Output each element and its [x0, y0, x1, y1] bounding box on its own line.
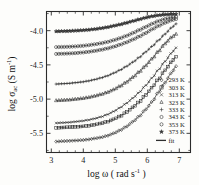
chart-canvas: 34567-4.0-4.5-5.0-5.5 293 K303 K313 K323…	[0, 0, 199, 185]
data-point	[90, 27, 94, 31]
legend-marker-triangle-icon	[160, 100, 163, 103]
data-point	[150, 14, 154, 18]
data-point	[115, 109, 118, 112]
fit-curve	[56, 48, 176, 123]
legend-label: 293 K	[169, 76, 186, 83]
x-tick-label: 5	[113, 156, 117, 165]
x-tick-label: 4	[81, 156, 85, 165]
legend-item-333-k[interactable]: 333 K	[160, 106, 185, 113]
x-tick-label: 6	[145, 156, 149, 165]
data-point	[148, 81, 151, 84]
data-point	[125, 65, 128, 68]
data-point	[172, 50, 175, 53]
legend-item-323-k[interactable]: 323 K	[160, 99, 185, 106]
legend-label: 343 K	[169, 113, 186, 120]
data-point	[65, 82, 68, 85]
data-point	[109, 112, 112, 115]
data-point	[153, 74, 156, 77]
data-point	[106, 74, 109, 77]
data-point	[123, 103, 126, 106]
y-tick-label: -5.0	[30, 95, 43, 104]
data-point	[81, 28, 85, 32]
legend-label: 373 K	[169, 128, 186, 135]
data-point	[111, 24, 115, 28]
data-point	[101, 76, 104, 79]
data-point	[161, 63, 164, 66]
legend-fit-label: fit	[169, 137, 175, 144]
data-point	[158, 13, 162, 17]
data-point	[175, 47, 178, 50]
data-point	[87, 79, 90, 82]
legend-label: 313 K	[169, 91, 186, 98]
data-point	[85, 80, 88, 83]
legend-item-303-k[interactable]: 303 K	[160, 84, 185, 91]
data-point	[95, 27, 99, 31]
y-tick-label: -4.0	[30, 27, 43, 36]
data-point	[174, 12, 178, 16]
legend-label: 303 K	[169, 84, 186, 91]
data-point	[57, 82, 60, 85]
data-point	[103, 25, 107, 29]
data-point	[76, 81, 79, 84]
data-point	[104, 75, 107, 78]
axes: 34567-4.0-4.5-5.0-5.5	[30, 12, 190, 166]
legend-label: 333 K	[169, 106, 186, 113]
data-point	[92, 27, 96, 31]
legend-label: 353 K	[169, 121, 186, 128]
x-tick-label: 7	[177, 156, 181, 165]
data-point	[93, 78, 96, 81]
y-tick-label: -4.5	[30, 61, 43, 70]
data-point	[156, 70, 159, 73]
data-point	[131, 61, 134, 64]
data-point	[90, 79, 93, 82]
series-323-k	[55, 32, 178, 101]
data-point	[117, 23, 121, 27]
data-point	[79, 80, 82, 83]
legend-marker-cross-icon	[160, 93, 163, 96]
data-point	[139, 90, 142, 93]
data-point	[112, 72, 115, 75]
series-293-k	[55, 65, 178, 144]
legend-item-fit[interactable]: fit	[156, 137, 175, 144]
legend-item-343-k[interactable]: 343 K	[160, 113, 185, 120]
y-axis-title: log σac (S m-1)	[5, 56, 18, 111]
data-point	[68, 82, 71, 85]
chart-figure: 34567-4.0-4.5-5.0-5.5 293 K303 K313 K323…	[0, 0, 199, 185]
data-point	[63, 82, 66, 85]
data-point	[142, 86, 145, 89]
data-point	[167, 56, 170, 59]
legend-marker-star-icon	[159, 130, 163, 134]
data-point	[82, 80, 85, 83]
data-point	[175, 32, 178, 35]
data-point	[120, 106, 123, 109]
y-tick-label: -5.5	[30, 129, 43, 138]
data-point	[74, 81, 77, 84]
data-point	[137, 92, 140, 95]
data-point	[98, 76, 101, 79]
data-point	[134, 95, 137, 98]
series-313-k	[55, 47, 178, 125]
chart-legend: 293 K303 K313 K323 K333 K343 K353 K373 K…	[156, 76, 185, 143]
x-axis-title: log ω ( rad s-1 )	[87, 167, 145, 179]
data-point	[158, 68, 161, 71]
legend-label: 323 K	[169, 99, 186, 106]
legend-item-373-k[interactable]: 373 K	[159, 128, 185, 135]
axis-labels: log ω ( rad s-1 )log σac (S m-1)	[5, 56, 145, 179]
legend-item-353-k[interactable]: 353 K	[160, 121, 185, 128]
legend-item-313-k[interactable]: 313 K	[160, 91, 185, 98]
data-series-group	[54, 12, 178, 143]
legend-marker-circle-icon	[160, 115, 163, 118]
data-point	[87, 28, 91, 32]
data-point	[95, 77, 98, 80]
x-tick-label: 3	[49, 156, 53, 165]
legend-marker-plus-icon	[160, 108, 164, 112]
data-point	[128, 99, 131, 102]
legend-marker-hexagon-icon	[160, 123, 163, 126]
data-point	[71, 81, 74, 84]
fit-curve	[56, 34, 176, 100]
data-point	[55, 82, 58, 85]
data-point	[60, 82, 63, 85]
